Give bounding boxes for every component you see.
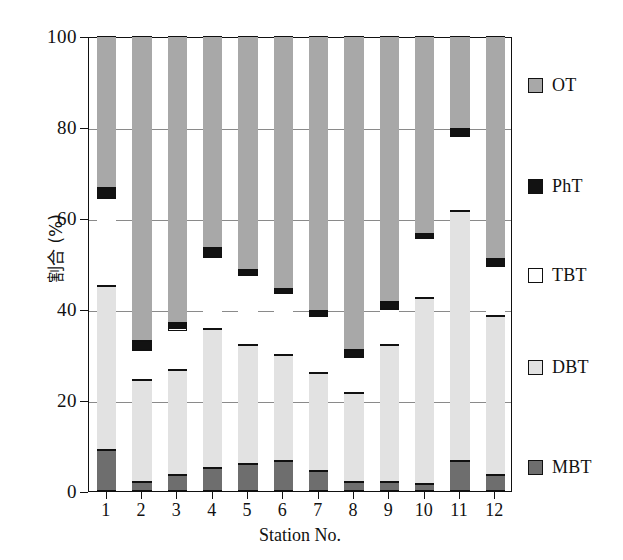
bar-segment-tbt xyxy=(380,309,399,345)
bar-segment-dbt xyxy=(132,380,151,482)
x-tick-mark xyxy=(141,492,142,499)
bar-segment-mbt xyxy=(309,471,328,491)
bar-station-2 xyxy=(133,36,152,491)
bar-station-6 xyxy=(274,36,293,491)
bar-segment-mbt xyxy=(450,461,469,491)
legend-item-mbt[interactable]: MBT xyxy=(528,457,592,478)
bar-segment-pht xyxy=(450,129,469,136)
bar-segment-tbt xyxy=(450,136,469,211)
x-tick-label-station-11: 11 xyxy=(439,500,479,521)
bar-segment-pht xyxy=(97,188,116,197)
y-axis-label: 割合 (%) xyxy=(42,189,67,309)
bar-segment-tbt xyxy=(344,357,363,393)
bar-segment-tbt xyxy=(274,293,293,354)
bar-segment-pht xyxy=(132,341,151,350)
y-tick-label: 20 xyxy=(57,391,77,410)
legend-label: TBT xyxy=(552,265,587,286)
x-tick-mark xyxy=(424,492,425,499)
y-tick-label: 60 xyxy=(57,209,77,228)
x-tick-label-station-1: 1 xyxy=(86,500,126,521)
bar-segment-tbt xyxy=(238,275,257,346)
x-tick-mark xyxy=(494,492,495,499)
bar-segment-tbt xyxy=(132,350,151,380)
bar-segment-ot xyxy=(203,36,222,248)
bar-station-10 xyxy=(415,36,434,491)
bar-segment-ot xyxy=(132,36,151,341)
gridline xyxy=(89,129,511,130)
bar-segment-ot xyxy=(415,36,434,234)
gridline xyxy=(89,402,511,403)
legend-label: PhT xyxy=(552,176,583,197)
x-tick-mark xyxy=(247,492,248,499)
x-tick-label-station-4: 4 xyxy=(192,500,232,521)
legend-item-pht[interactable]: PhT xyxy=(528,176,583,197)
y-tick-label: 80 xyxy=(57,118,77,137)
bar-station-8 xyxy=(345,36,364,491)
bar-station-12 xyxy=(486,36,505,491)
bar-segment-mbt xyxy=(274,461,293,491)
bar-segment-ot xyxy=(450,36,469,129)
x-tick-mark xyxy=(282,492,283,499)
x-axis-label: Station No. xyxy=(88,525,512,546)
bar-segment-tbt xyxy=(309,316,328,373)
bar-segment-tbt xyxy=(168,330,187,371)
bar-station-7 xyxy=(309,36,328,491)
y-tick-mark xyxy=(80,401,88,402)
bar-segment-mbt xyxy=(344,482,363,491)
bar-segment-ot xyxy=(486,36,505,259)
y-tick-label: 100 xyxy=(47,27,77,46)
bar-segment-mbt xyxy=(97,450,116,491)
bar-station-9 xyxy=(380,36,399,491)
y-tick-mark xyxy=(80,128,88,129)
legend-label: OT xyxy=(552,75,577,96)
bar-segment-pht xyxy=(238,270,257,275)
y-tick-mark xyxy=(80,219,88,220)
bar-station-4 xyxy=(203,36,222,491)
bar-segment-pht xyxy=(274,289,293,294)
x-tick-label-station-10: 10 xyxy=(404,500,444,521)
bar-segment-dbt xyxy=(97,286,116,450)
legend-label: DBT xyxy=(552,357,589,378)
bar-segment-mbt xyxy=(380,482,399,491)
x-tick-label-station-5: 5 xyxy=(227,500,267,521)
x-tick-label-station-9: 9 xyxy=(368,500,408,521)
bar-segment-tbt xyxy=(486,266,505,316)
bar-segment-mbt xyxy=(203,468,222,491)
bar-segment-dbt xyxy=(274,355,293,462)
legend-item-tbt[interactable]: TBT xyxy=(528,265,587,286)
x-tick-mark xyxy=(388,492,389,499)
bar-segment-dbt xyxy=(168,370,187,475)
x-tick-label-station-8: 8 xyxy=(333,500,373,521)
x-tick-mark xyxy=(176,492,177,499)
bar-segment-mbt xyxy=(238,464,257,491)
x-tick-mark xyxy=(459,492,460,499)
bar-segment-tbt xyxy=(415,238,434,297)
bar-segment-ot xyxy=(380,36,399,302)
bar-segment-pht xyxy=(203,248,222,257)
x-tick-mark xyxy=(212,492,213,499)
bar-segment-ot xyxy=(344,36,363,350)
gridline xyxy=(89,311,511,312)
bar-segment-tbt xyxy=(97,198,116,287)
x-tick-mark xyxy=(318,492,319,499)
bar-segment-dbt xyxy=(238,345,257,463)
y-tick-mark xyxy=(80,310,88,311)
bar-segment-mbt xyxy=(486,475,505,491)
x-tick-label-station-3: 3 xyxy=(156,500,196,521)
bar-segment-dbt xyxy=(344,393,363,482)
y-tick-mark xyxy=(80,492,88,493)
legend-swatch-tbt-icon xyxy=(528,268,543,283)
bar-segment-pht xyxy=(344,350,363,357)
gridline xyxy=(89,220,511,221)
legend-swatch-pht-icon xyxy=(528,179,543,194)
bar-station-1 xyxy=(97,36,116,491)
bar-segment-dbt xyxy=(309,373,328,471)
bar-segment-pht xyxy=(486,259,505,266)
x-tick-mark xyxy=(353,492,354,499)
legend-item-dbt[interactable]: DBT xyxy=(528,357,589,378)
bar-segment-ot xyxy=(97,36,116,188)
bar-segment-mbt xyxy=(132,482,151,491)
legend-item-ot[interactable]: OT xyxy=(528,75,577,96)
bar-station-5 xyxy=(239,36,258,491)
bar-segment-pht xyxy=(380,302,399,309)
